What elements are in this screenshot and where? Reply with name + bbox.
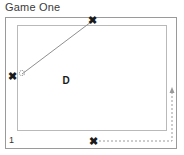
player-marker-bottom: ✖	[89, 136, 98, 147]
player-marker-top: ✖	[88, 15, 97, 26]
player-marker-left: ✖	[8, 71, 17, 82]
run-path-dashed	[99, 92, 172, 141]
sequence-label: 1	[9, 135, 14, 145]
ball-icon	[19, 70, 25, 76]
pass-line	[22, 22, 91, 74]
play-diagram: Game One ✖ ✖ ✖ D 1	[0, 0, 184, 155]
zone-label: D	[62, 76, 69, 86]
run-path-arrowhead-icon	[170, 87, 175, 93]
